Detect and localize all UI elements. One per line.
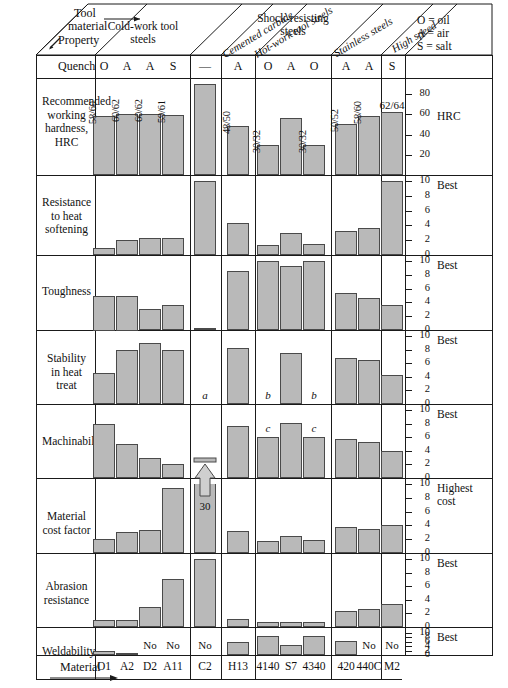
panel-label-1: Resistance to heat softening: [42, 196, 91, 237]
scale-caption-2: Best: [437, 259, 491, 272]
bar-6-8: [303, 622, 325, 627]
hardness-value-1: 60/62: [110, 99, 121, 122]
scale-caption-4: Best: [437, 408, 491, 421]
bar-1-3: [162, 238, 184, 255]
tick-2-3: [406, 289, 412, 290]
bar-7-9: [335, 641, 357, 655]
bar-3-1: [116, 350, 138, 404]
tick-6-2: [406, 600, 412, 601]
bar-1-6: [257, 245, 279, 255]
tick-2-5: [406, 261, 412, 262]
quench-value-0: O: [100, 59, 109, 74]
legend-item-0: O = oil: [417, 14, 452, 27]
bar-2-11: [381, 305, 403, 330]
tick-label-2-4: 8: [414, 268, 430, 279]
weldability-no-4: No: [198, 639, 211, 651]
tick-1-1: [406, 240, 412, 241]
tick-label-0-3: 80: [414, 87, 430, 98]
group-divider-0: [190, 55, 191, 679]
tick-label-5-2: 4: [414, 518, 430, 529]
hardness-value-5: 48/50: [221, 112, 232, 135]
weldability-no-2: No: [143, 639, 156, 651]
tick-4-4: [406, 424, 412, 425]
material-name-3: A11: [163, 660, 182, 672]
bar-7-5: [227, 642, 249, 655]
bar-4-7: [280, 423, 302, 478]
tick-6-1: [406, 613, 412, 614]
tick-label-1-4: 8: [414, 189, 430, 200]
bar-3-9: [335, 358, 357, 404]
bar-1-2: [139, 238, 161, 255]
quench-bottom-rule: [36, 78, 493, 79]
tick-label-3-5: 10: [414, 329, 430, 340]
cost-break-value: 30: [200, 500, 211, 512]
bar-2-1: [116, 296, 138, 331]
bar-0-3: [162, 115, 184, 175]
bar-5-2: [139, 530, 161, 553]
hardness-value-3: 59/61: [156, 100, 167, 123]
tick-3-2: [406, 377, 412, 378]
bar-4-8: [303, 437, 325, 478]
bar-7-6: [257, 636, 279, 655]
tick-label-1-2: 4: [414, 218, 430, 229]
tick-2-2: [406, 302, 412, 303]
bar-2-7: [280, 266, 302, 330]
panel-label-5: Material cost factor: [42, 510, 91, 537]
hardness-value-11: 62/64: [379, 99, 404, 111]
tick-4-2: [406, 451, 412, 452]
bar-5-0: [93, 539, 115, 553]
tick-2-4: [406, 275, 412, 276]
tick-4-3: [406, 437, 412, 438]
tick-2-1: [406, 316, 412, 317]
bar-5-6: [257, 541, 279, 553]
bar-6-1: [116, 620, 138, 627]
quench-value-2: A: [146, 59, 155, 74]
bar-6-4: [194, 559, 216, 627]
bar-2-3: [162, 305, 184, 330]
quench-value-6: O: [264, 59, 273, 74]
bar-4-1: [116, 444, 138, 478]
bar-5-1: [116, 532, 138, 553]
weldability-no-3: No: [166, 639, 179, 651]
tick-6-3: [406, 586, 412, 587]
tick-1-2: [406, 225, 412, 226]
bar-3-10: [358, 360, 380, 404]
quench-value-7: A: [287, 59, 296, 74]
bar-1-0: [93, 248, 115, 255]
bar-5-8: [303, 540, 325, 553]
bar-3-2: [139, 343, 161, 404]
bar-2-8: [303, 261, 325, 330]
tick-6-4: [406, 573, 412, 574]
tick-1-3: [406, 211, 412, 212]
tick-label-2-5: 10: [414, 254, 430, 265]
bar-6-6: [257, 622, 279, 627]
bar-5-5: [227, 531, 249, 553]
panel-label-4: Machinability: [42, 435, 91, 449]
tick-label-7-5: 10: [414, 626, 430, 637]
material-name-10: 440C: [357, 660, 382, 672]
bar-2-10: [358, 298, 380, 330]
bar-0-11: [381, 112, 403, 175]
tick-7-1: [406, 651, 412, 652]
tick-4-5: [406, 410, 412, 411]
plot-right-axis: [405, 78, 406, 655]
bar-0-1: [116, 114, 138, 175]
group-divider-3: [331, 55, 332, 679]
table-right-border: [492, 55, 493, 655]
quench-value-4: —: [199, 59, 211, 74]
bar-1-9: [335, 231, 357, 255]
hardness-value-0: 58/60: [87, 101, 98, 124]
bar-3-5: [227, 348, 249, 404]
tick-label-3-4: 8: [414, 343, 430, 354]
scale-caption-0: HRC: [437, 110, 491, 123]
bar-0-2: [139, 114, 161, 175]
tick-5-3: [406, 512, 412, 513]
tick-label-0-0: 20: [414, 148, 430, 159]
bar-5-10: [358, 529, 380, 553]
quench-value-11: S: [389, 59, 396, 74]
tick-5-2: [406, 525, 412, 526]
tick-label-6-1: 2: [414, 606, 430, 617]
weldability-no-10: No: [362, 639, 375, 651]
panel-label-2: Toughness: [42, 285, 91, 299]
hardness-value-7: 56: [0, 0, 254, 12]
